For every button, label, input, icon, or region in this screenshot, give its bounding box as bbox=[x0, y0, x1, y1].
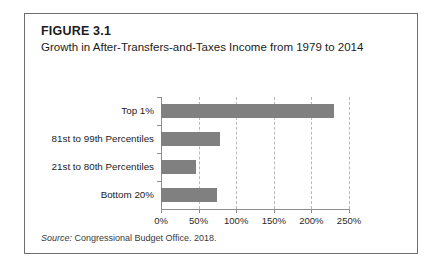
y-axis-tick bbox=[157, 97, 161, 98]
x-axis-tick bbox=[349, 209, 350, 213]
x-axis-tick bbox=[236, 209, 237, 213]
y-axis-tick bbox=[157, 181, 161, 182]
x-axis-tick-label: 0% bbox=[154, 215, 168, 226]
category-label: Bottom 20% bbox=[101, 187, 154, 202]
x-axis-tick bbox=[311, 209, 312, 213]
bar bbox=[161, 132, 220, 146]
bar bbox=[161, 104, 334, 118]
y-axis-tick bbox=[157, 153, 161, 154]
category-label: 81st to 99th Percentiles bbox=[52, 131, 154, 146]
bar-row: 21st to 80th Percentiles bbox=[161, 153, 349, 181]
x-axis-tick bbox=[199, 209, 200, 213]
figure-number: FIGURE 3.1 bbox=[41, 24, 407, 39]
x-axis-tick bbox=[161, 209, 162, 213]
x-axis-tick-label: 50% bbox=[189, 215, 208, 226]
source-text: Congressional Budget Office. 2018. bbox=[72, 233, 216, 243]
x-axis-tick-label: 100% bbox=[224, 215, 248, 226]
plot-area: Top 1%81st to 99th Percentiles21st to 80… bbox=[161, 97, 349, 209]
source-note: Source: Congressional Budget Office. 201… bbox=[41, 233, 216, 243]
x-axis-tick-label: 250% bbox=[337, 215, 361, 226]
bar bbox=[161, 188, 217, 202]
x-axis-tick-label: 150% bbox=[262, 215, 286, 226]
y-axis-tick bbox=[157, 125, 161, 126]
x-axis-tick bbox=[274, 209, 275, 213]
x-axis-tick-label: 200% bbox=[299, 215, 323, 226]
figure-title: Growth in After-Transfers-and-Taxes Inco… bbox=[41, 40, 407, 55]
bar-chart: Top 1%81st to 99th Percentiles21st to 80… bbox=[25, 89, 419, 229]
bar-row: Bottom 20% bbox=[161, 181, 349, 209]
category-label: Top 1% bbox=[121, 103, 154, 118]
bar-row: 81st to 99th Percentiles bbox=[161, 125, 349, 153]
figure-header: FIGURE 3.1 Growth in After-Transfers-and… bbox=[41, 24, 407, 55]
x-axis-line bbox=[161, 209, 350, 210]
figure-frame: FIGURE 3.1 Growth in After-Transfers-and… bbox=[24, 13, 418, 254]
source-label: Source: bbox=[41, 233, 72, 243]
bar-row: Top 1% bbox=[161, 97, 349, 125]
category-label: 21st to 80th Percentiles bbox=[52, 159, 154, 174]
bar bbox=[161, 160, 196, 174]
gridline bbox=[349, 97, 350, 209]
